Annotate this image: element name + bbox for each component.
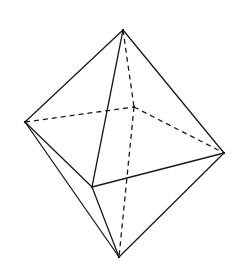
solid-edge-front-right	[92, 153, 224, 187]
vertex-right	[223, 152, 225, 154]
solid-edge-left-bottom	[25, 122, 119, 257]
vertex-left	[24, 121, 26, 123]
vertex-back	[133, 106, 135, 108]
octahedron-diagram	[0, 0, 240, 280]
vertices	[24, 29, 225, 258]
solid-edge-left-front	[25, 122, 92, 187]
solid-edge-right-bottom	[119, 153, 224, 257]
dashed-edge-back-bottom	[119, 107, 134, 257]
hidden-edges	[25, 30, 224, 257]
vertex-front	[91, 186, 93, 188]
vertex-top	[122, 29, 124, 31]
visible-edges	[25, 30, 224, 257]
dashed-edge-back-right	[134, 107, 224, 153]
solid-edge-top-right	[123, 30, 224, 153]
solid-edge-top-left	[25, 30, 123, 122]
dashed-edge-left-back	[25, 107, 134, 122]
solid-edge-front-bottom	[92, 187, 119, 257]
vertex-bottom	[118, 256, 120, 258]
